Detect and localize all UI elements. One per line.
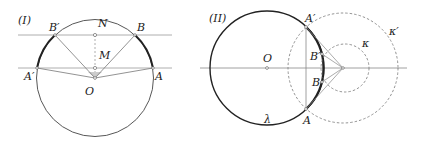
label-B: B bbox=[136, 21, 145, 34]
label-A: A bbox=[302, 114, 311, 127]
label-B-prime: B′ bbox=[48, 21, 60, 34]
label-A-prime: A′ bbox=[23, 70, 35, 83]
point-O bbox=[266, 67, 269, 70]
panel-ii: (II) A′ O B′ B A κ κ′ λ bbox=[200, 11, 407, 127]
label-kappa: κ bbox=[361, 37, 370, 50]
point-B bbox=[321, 81, 324, 84]
geometry-figure: (I) B′ N B M A′ A O (II) bbox=[0, 0, 422, 143]
point-A bbox=[305, 108, 308, 111]
point-O bbox=[94, 77, 97, 80]
label-kappa-prime: κ′ bbox=[388, 25, 399, 38]
point-B-prime bbox=[321, 53, 324, 56]
segment-OA-prime bbox=[37, 68, 95, 78]
point-A-prime bbox=[36, 67, 39, 70]
label-O: O bbox=[85, 85, 94, 98]
label-B: B bbox=[311, 76, 320, 89]
point-A bbox=[152, 67, 155, 70]
arc-right-thick bbox=[135, 35, 153, 68]
point-N bbox=[93, 33, 96, 36]
point-B bbox=[134, 34, 137, 37]
arc-left-thick bbox=[37, 35, 55, 68]
label-M: M bbox=[98, 49, 111, 62]
label-B-prime: B′ bbox=[309, 50, 321, 63]
segment-OB-prime bbox=[55, 35, 95, 78]
point-center bbox=[342, 67, 345, 70]
point-M bbox=[93, 66, 96, 69]
panel-i: (I) B′ N B M A′ A O bbox=[18, 14, 172, 137]
panel-i-title: (I) bbox=[18, 14, 31, 27]
point-B-prime bbox=[54, 34, 57, 37]
label-N: N bbox=[97, 17, 108, 30]
label-lambda: λ bbox=[263, 113, 271, 126]
label-A-prime: A′ bbox=[304, 12, 316, 25]
point-A-prime bbox=[305, 26, 308, 29]
label-O: O bbox=[263, 52, 272, 65]
segment-OA bbox=[95, 68, 153, 78]
label-A: A bbox=[154, 70, 163, 83]
panel-ii-title: (II) bbox=[209, 12, 226, 25]
